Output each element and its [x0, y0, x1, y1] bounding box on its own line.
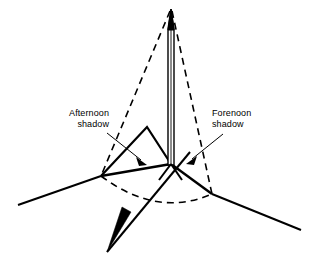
ground-plane-ridge	[101, 127, 171, 176]
ground-line-right	[212, 194, 301, 230]
forenoon-shadow-label: Forenoon shadow	[212, 108, 268, 130]
direction-arrowhead	[107, 207, 131, 252]
sun-ray-afternoon-dashed	[101, 11, 170, 176]
forenoon-shadow-label-line1: Forenoon	[212, 108, 268, 119]
diagram-canvas	[0, 0, 317, 269]
leader-arrowhead-afternoon	[136, 157, 147, 166]
afternoon-shadow-label-line2: shadow	[57, 119, 109, 130]
forenoon-shadow-label-line2: shadow	[212, 119, 268, 130]
leader-line-afternoon	[107, 133, 141, 160]
leader-line-forenoon	[192, 134, 223, 159]
ground-line-left	[18, 176, 101, 205]
shadow-diagram: Afternoon shadow Forenoon shadow	[0, 0, 317, 269]
afternoon-shadow-label: Afternoon shadow	[57, 108, 109, 130]
afternoon-shadow-label-line1: Afternoon	[57, 108, 109, 119]
leader-arrowhead-forenoon	[186, 156, 197, 165]
shadow-locus-arc	[101, 176, 212, 203]
